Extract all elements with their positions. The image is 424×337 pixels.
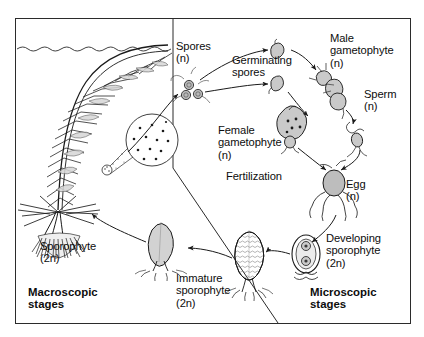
label-microscopic-stages: Microscopic stages	[310, 286, 402, 311]
label-sperm: Sperm (n)	[364, 88, 410, 113]
label-sporophyte: Sporophyte (2n)	[40, 240, 116, 265]
label-immature-sporophyte: Immature sporophyte (2n)	[176, 272, 248, 309]
fern-life-cycle-figure: Spores (n) Germinating spores Male gamet…	[0, 0, 424, 337]
label-developing-sporophyte: Developing sporophyte (2n)	[326, 232, 402, 269]
label-egg: Egg (n)	[346, 178, 382, 203]
label-germinating-spores: Germinating spores	[232, 54, 310, 79]
label-female-gametophyte: Female gametophyte (n)	[218, 124, 298, 161]
label-macroscopic-stages: Macroscopic stages	[28, 286, 118, 311]
label-spores: Spores (n)	[176, 40, 224, 65]
label-male-gametophyte: Male gametophyte (n)	[330, 32, 410, 69]
label-fertilization: Fertilization	[226, 170, 300, 182]
